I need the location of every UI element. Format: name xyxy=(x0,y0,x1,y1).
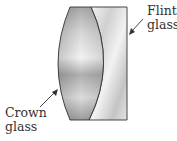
flint-label-line2: glass xyxy=(147,18,177,32)
crown-glass-label: Crown glass xyxy=(5,106,47,134)
flint-glass-label: Flint glass xyxy=(147,4,177,32)
crown-label-line1: Crown xyxy=(5,106,47,120)
crown-label-line2: glass xyxy=(5,120,47,134)
flint-label-line1: Flint xyxy=(147,4,177,18)
flint-arrow-icon xyxy=(129,19,143,35)
doublet-lens-diagram: Flint glass Crown glass xyxy=(0,0,177,141)
